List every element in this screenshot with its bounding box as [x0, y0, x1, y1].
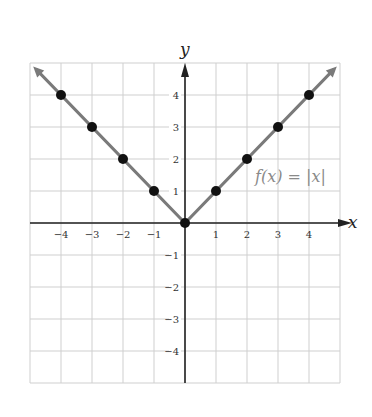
data-point: [56, 90, 66, 100]
abs-value-graph: −4−3−2−112344321−1−2−3−4 x y f(x) = |x|: [0, 0, 372, 417]
y-tick-label: 2: [173, 154, 179, 165]
x-tick-label: −2: [116, 229, 131, 240]
data-point: [273, 122, 283, 132]
data-point: [180, 218, 190, 228]
data-point: [242, 154, 252, 164]
x-axis-label: x: [348, 212, 358, 232]
x-tick-label: 1: [213, 229, 219, 240]
data-point: [304, 90, 314, 100]
y-tick-label: 1: [173, 186, 179, 197]
data-point: [149, 186, 159, 196]
y-axis-arrow-icon: [181, 63, 189, 77]
y-tick-label: −2: [164, 282, 179, 293]
y-axis-label: y: [179, 39, 190, 59]
x-tick-label: 4: [306, 229, 312, 240]
function-label: f(x) = |x|: [254, 167, 326, 186]
data-point: [118, 154, 128, 164]
y-tick-label: −1: [164, 250, 179, 261]
x-tick-label: 3: [275, 229, 281, 240]
y-tick-label: 3: [173, 122, 179, 133]
x-tick-label: −3: [85, 229, 100, 240]
y-tick-label: −3: [164, 314, 179, 325]
data-point: [211, 186, 221, 196]
x-tick-label: 2: [244, 229, 250, 240]
x-tick-label: −4: [54, 229, 69, 240]
data-point: [87, 122, 97, 132]
y-tick-label: −4: [164, 346, 179, 357]
y-tick-label: 4: [173, 90, 179, 101]
x-tick-label: −1: [147, 229, 162, 240]
